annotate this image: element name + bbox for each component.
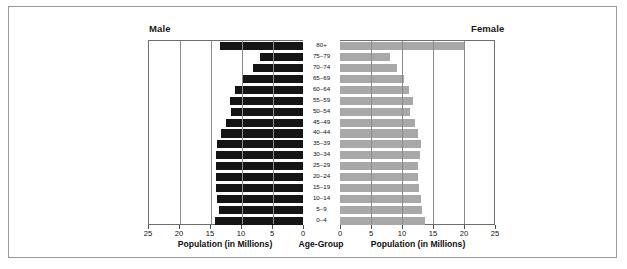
bar-female-65–69 [340,75,404,83]
bar-row [149,64,303,72]
bar-row [149,119,303,127]
age-group-label: 0–4 [303,216,340,224]
age-group-label: 30–34 [303,150,340,158]
male-x-axis: 0510152025 [148,225,303,239]
age-group-label: 5–9 [303,205,340,213]
axis-tick-label-15: 15 [206,229,214,238]
male-axis-title: Population (in Millions) [178,239,273,249]
female-x-axis: 0510152025 [340,225,495,239]
axis-tick-label-20: 20 [175,229,183,238]
age-group-label: 80+ [303,41,340,49]
female-axis-title: Population (in Millions) [371,239,466,249]
gridline-5 [273,41,274,224]
axis-tick-label-5: 5 [270,229,274,238]
bar-row [149,108,303,116]
axis-tick-label-0: 0 [301,229,305,238]
bar-row [149,75,303,83]
age-group-label: 40–44 [303,128,340,136]
bar-female-60–64 [340,86,409,94]
bar-row [149,173,303,181]
bar-male-20–24 [216,173,303,181]
bar-row [149,86,303,94]
bar-male-80+ [220,42,303,50]
axis-tick-label-25: 25 [144,229,152,238]
bar-male-10–14 [217,195,303,203]
bar-row [340,53,494,61]
bar-row [149,195,303,203]
bar-male-25–29 [216,162,303,170]
age-group-label: 15–19 [303,183,340,191]
bar-female-75–79 [340,53,390,61]
bar-row [340,129,494,137]
bar-row [340,119,494,127]
axis-tick-label-20: 20 [460,229,468,238]
gridline-10 [242,41,243,224]
population-pyramid-screenshot: Male Female 80+75–7970–7465–6960–6455–59… [0,0,627,269]
bar-row [340,151,494,159]
bar-male-75–79 [260,53,303,61]
bar-row [340,64,494,72]
bar-row [149,53,303,61]
bar-row [149,162,303,170]
bar-row [149,42,303,50]
age-group-label: 10–14 [303,194,340,202]
axis-tick-label-25: 25 [491,229,499,238]
bar-row [149,217,303,225]
bar-male-40–44 [221,129,303,137]
bar-row [340,140,494,148]
male-bar-rows [149,41,303,224]
axis-tick-label-0: 0 [338,229,342,238]
bar-female-20–24 [340,173,418,181]
bar-row [340,206,494,214]
age-group-label: 25–29 [303,161,340,169]
age-group-label: 50–54 [303,107,340,115]
bar-row [340,86,494,94]
age-group-label: 75–79 [303,52,340,60]
bar-row [340,173,494,181]
age-group-label: 55–59 [303,96,340,104]
bar-row [149,184,303,192]
bar-male-0–4 [215,217,303,225]
age-group-label: 60–64 [303,85,340,93]
bar-female-10–14 [340,195,421,203]
age-group-label: 20–24 [303,172,340,180]
bar-row [340,217,494,225]
gridline-20 [464,41,465,224]
bar-female-0–4 [340,217,425,225]
gridline-10 [402,41,403,224]
bar-row [340,195,494,203]
axis-tick-label-10: 10 [237,229,245,238]
age-group-label: 70–74 [303,63,340,71]
bar-female-35–39 [340,140,421,148]
bar-female-5–9 [340,206,422,214]
bar-female-50–54 [340,108,410,116]
bar-female-30–34 [340,151,420,159]
bar-row [340,42,494,50]
axis-tick-label-10: 10 [398,229,406,238]
age-group-label: 65–69 [303,74,340,82]
age-group-axis: 80+75–7970–7465–6960–6455–5950–5445–4940… [303,40,340,225]
age-group-label: 45–49 [303,118,340,126]
bar-male-15–19 [216,184,303,192]
bar-row [340,184,494,192]
bar-male-5–9 [219,206,303,214]
age-group-label: 35–39 [303,139,340,147]
bar-female-15–19 [340,184,419,192]
bar-row [340,75,494,83]
bar-male-55–59 [230,97,303,105]
bar-male-45–49 [226,119,303,127]
bar-female-25–29 [340,162,418,170]
axis-tick-label-15: 15 [429,229,437,238]
bar-male-60–64 [235,86,303,94]
bar-row [340,162,494,170]
bar-male-30–34 [216,151,303,159]
female-heading: Female [471,23,504,34]
gridline-5 [371,41,372,224]
gridline-15 [211,41,212,224]
bar-row [149,206,303,214]
bar-row [149,97,303,105]
axis-tick-label-5: 5 [369,229,373,238]
bar-female-70–74 [340,64,397,72]
bar-male-35–39 [217,140,303,148]
age-group-axis-title: Age-Group [299,239,344,249]
